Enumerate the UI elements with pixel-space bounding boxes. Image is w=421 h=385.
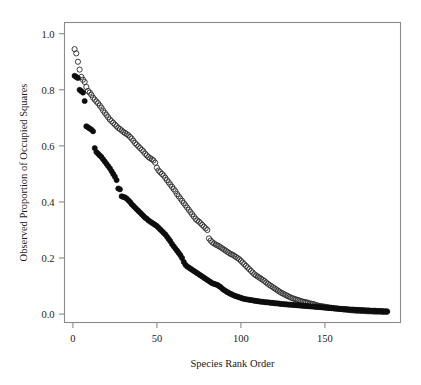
x-tick-label: 150: [317, 333, 333, 344]
y-tick-label: 0.0: [41, 309, 54, 320]
scatter-plot: 050100150 0.00.20.40.60.81.0 Species Ran…: [0, 0, 421, 385]
x-tick-label: 100: [233, 333, 249, 344]
data-point: [117, 187, 122, 192]
y-tick-label: 1.0: [41, 29, 54, 40]
chart-figure: 050100150 0.00.20.40.60.81.0 Species Ran…: [0, 0, 421, 385]
y-tick-label: 0.4: [41, 197, 55, 208]
y-tick-label: 0.2: [41, 253, 54, 264]
y-axis-label: Observed Proportion of Occupied Squares: [18, 84, 29, 262]
x-axis-label: Species Rank Order: [191, 358, 275, 369]
data-point: [114, 177, 119, 182]
x-tick-label: 0: [70, 333, 75, 344]
data-point: [75, 75, 80, 80]
data-point: [82, 98, 87, 103]
plot-background: [0, 0, 421, 385]
data-point: [90, 129, 95, 134]
data-point: [80, 90, 85, 95]
y-tick-label: 0.6: [41, 141, 54, 152]
y-tick-label: 0.8: [41, 85, 54, 96]
data-point: [384, 309, 389, 314]
x-tick-label: 50: [152, 333, 163, 344]
